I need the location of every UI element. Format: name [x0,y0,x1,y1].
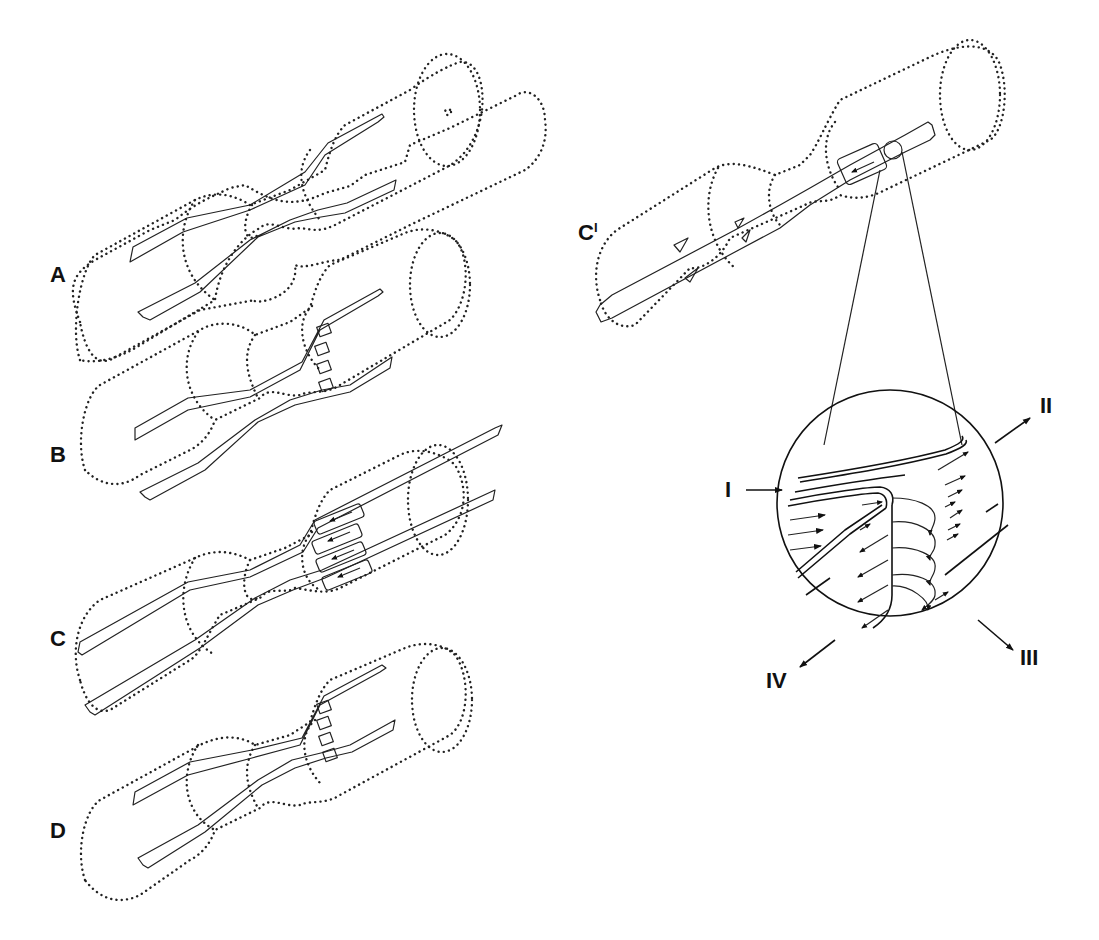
panel-label-c: C [50,626,66,651]
panel-label-a: A [50,262,66,287]
label-ii: II [1040,393,1052,418]
panel-label-b: B [50,442,66,467]
inset-circle [777,390,1003,616]
panel-a-drawing: A [50,54,483,361]
arrow-iv [800,640,835,667]
direction-indicators: I II III IV [725,393,1052,693]
panel-label-d: D [50,818,66,843]
sheet-segments-c [311,503,373,591]
label-i: I [725,477,731,502]
panel-d-drawing: D [50,644,472,900]
panel-c-drawing: C [50,425,502,715]
panel-a [73,92,546,361]
label-iv: IV [766,668,787,693]
panel-c-prime-drawing: CI [578,40,1005,445]
zoom-line-right [902,152,962,445]
panel-b-drawing: B [50,229,470,500]
label-iii: III [1020,645,1038,670]
inset-magnified-view [777,390,1008,628]
panel-label-c-prime: CI [578,220,598,245]
diagram-canvas: A B [0,0,1099,940]
arrow-ii [995,418,1030,443]
arrow-iii [978,620,1013,650]
zoom-line-left [824,170,880,445]
